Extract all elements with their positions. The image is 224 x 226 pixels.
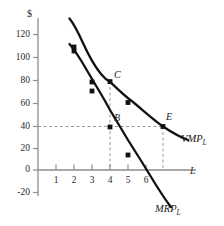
- mrp-l-marker: [108, 125, 113, 130]
- mrp-l-marker: [126, 153, 131, 158]
- annotation-label-c: C: [114, 70, 121, 80]
- y-axis-title: $: [27, 9, 32, 19]
- vmp-l-marker: [126, 100, 131, 105]
- vmp-l-marker: [108, 79, 113, 84]
- x-axis-title: L: [190, 166, 196, 176]
- vmp-l-marker: [161, 124, 166, 129]
- mrp-l-marker: [72, 49, 77, 54]
- y-tick-label-0: 0: [6, 165, 30, 175]
- y-tick-label-80: 80: [6, 76, 30, 86]
- x-tick-label-1: 1: [48, 176, 64, 186]
- mrp-l-marker: [90, 89, 95, 94]
- chart-plot-area: [0, 0, 224, 226]
- y-tick-label-60: 60: [6, 99, 30, 109]
- y-tick-label-120: 120: [6, 30, 30, 40]
- annotation-label-e: E: [166, 112, 172, 122]
- x-tick-label-4: 4: [102, 176, 118, 186]
- series-label-mrp-l: MRPL: [155, 204, 181, 217]
- y-tick-label-40: 40: [6, 122, 30, 132]
- x-axis-ticks: [56, 165, 146, 171]
- series-label-vmp-l-sub: L: [203, 138, 207, 147]
- series-label-vmp-l: VMPL: [181, 134, 207, 147]
- x-tick-label-6: 6: [138, 176, 154, 186]
- annotation-label-b: B: [114, 113, 120, 123]
- series-label-vmp-l-text: VMP: [181, 133, 203, 144]
- axis-lines: [38, 18, 196, 196]
- labor-demand-chart: $ L 120 100 80 60 40 20 0 -20 1 2 3 4 5 …: [0, 0, 224, 226]
- series-label-mrp-l-text: MRP: [155, 203, 177, 214]
- y-tick-label-neg20: -20: [2, 188, 30, 198]
- y-tick-label-20: 20: [6, 144, 30, 154]
- series-label-mrp-l-sub: L: [177, 208, 181, 217]
- y-tick-label-100: 100: [6, 53, 30, 63]
- x-tick-label-2: 2: [66, 176, 82, 186]
- y-axis-ticks: [33, 35, 38, 193]
- x-tick-label-5: 5: [120, 176, 136, 186]
- x-tick-label-3: 3: [84, 176, 100, 186]
